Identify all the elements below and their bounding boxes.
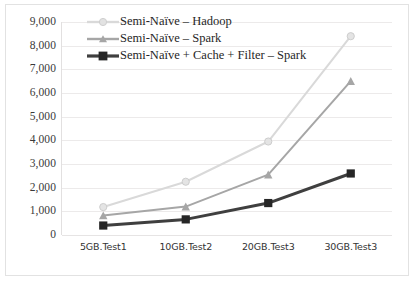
y-axis-tick-labels: 9,0008,0007,0006,0005,0004,0003,0002,000… (0, 22, 56, 235)
legend-item-hadoop: Semi-Naïve – Hadoop (86, 13, 336, 30)
data-point-square (264, 199, 272, 207)
legend-label-spark: Semi-Naïve – Spark (120, 32, 221, 45)
data-point-circle (265, 138, 272, 145)
legend-label-cache-filter-spark: Semi-Naïve + Cache + Filter – Spark (120, 49, 306, 62)
legend-item-cache-filter-spark: Semi-Naïve + Cache + Filter – Spark (86, 47, 336, 64)
series-2 (99, 77, 355, 219)
y-axis-tick-label: 2,000 (4, 182, 56, 193)
y-axis-tick-label: 8,000 (4, 40, 56, 51)
legend-marker-square-icon (86, 49, 120, 63)
data-point-triangle (347, 77, 355, 85)
series-line (103, 173, 351, 225)
y-axis-tick-label: 5,000 (4, 111, 56, 122)
data-point-square (99, 221, 107, 229)
data-point-square (347, 169, 355, 177)
data-point-circle (182, 178, 189, 185)
x-axis-tick-label: 30GB.Test3 (324, 241, 377, 252)
legend-item-spark: Semi-Naïve – Spark (86, 30, 336, 47)
y-axis-tick-label: 0 (4, 229, 56, 240)
x-axis-tick-label: 10GB.Test2 (159, 241, 212, 252)
y-axis-tick-label: 3,000 (4, 158, 56, 169)
data-point-square (182, 215, 190, 223)
data-point-circle (100, 203, 107, 210)
x-axis-tick-label: 5GB.Test1 (80, 241, 127, 252)
gridline (62, 235, 392, 236)
data-point-circle (347, 33, 354, 40)
chart-legend: Semi-Naïve – Hadoop Semi-Naïve – Spark S… (86, 13, 336, 64)
legend-marker-triangle-icon (86, 32, 120, 46)
legend-label-hadoop: Semi-Naïve – Hadoop (120, 15, 232, 28)
series-3 (99, 169, 355, 229)
chart-figure: 9,0008,0007,0006,0005,0004,0003,0002,000… (0, 0, 419, 284)
y-axis-tick-label: 7,000 (4, 63, 56, 74)
y-axis-tick-label: 1,000 (4, 205, 56, 216)
y-axis-tick-label: 9,000 (4, 16, 56, 27)
y-axis-tick-label: 6,000 (4, 87, 56, 98)
x-axis-tick-labels: 5GB.Test110GB.Test220GB.Test330GB.Test3 (62, 241, 392, 263)
legend-marker-circle-icon (86, 15, 120, 29)
y-axis-tick-label: 4,000 (4, 134, 56, 145)
x-axis-tick-label: 20GB.Test3 (242, 241, 295, 252)
